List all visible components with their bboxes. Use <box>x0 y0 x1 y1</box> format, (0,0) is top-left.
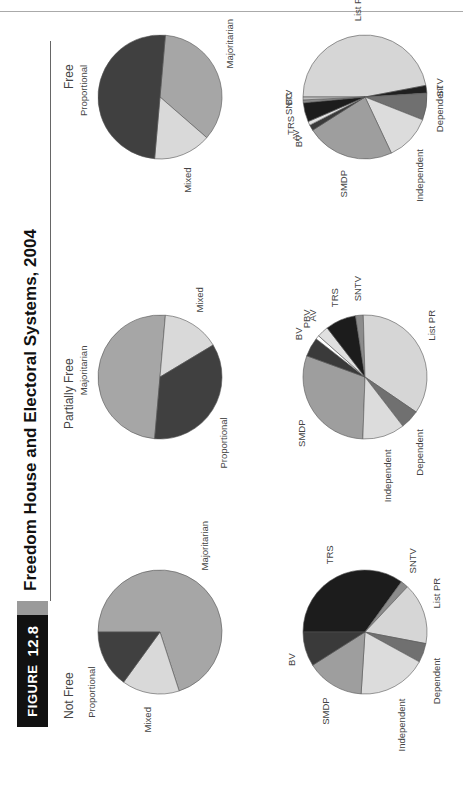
pie-slice-proportional <box>98 35 165 159</box>
pie-label-smdp: SMDP <box>338 170 349 197</box>
pie-label-trs: TRS <box>285 116 296 135</box>
pie-label-list-pr: List PR <box>426 310 437 341</box>
figure-number: 12.8 <box>24 625 41 656</box>
pie-partially-free-detail: SMDPBVPBVAVTRSSNTVList PRDependentIndepe… <box>290 302 440 452</box>
pie-not-free-detail: TRSSNTVList PRDependentIndependentSMDPBV <box>290 557 440 707</box>
pie-label-mixed: Mixed <box>182 167 193 192</box>
pie-label-majoritarian: Majoritarian <box>224 19 235 69</box>
pie-label-independent: Independent <box>396 698 407 751</box>
pie-slice-list-pr <box>303 35 426 97</box>
pie-label-proportional: Proportional <box>218 417 229 468</box>
pie-label-mixed: Mixed <box>142 707 153 732</box>
pie-label-dependent: Dependent <box>434 85 445 132</box>
pie-label-proportional: Proportional <box>86 667 97 718</box>
pie-label-majoritarian: Majoritarian <box>199 521 210 571</box>
pie-free-detail: List PRSTVDependentIndependentSMDPBVAVTR… <box>290 22 440 172</box>
pie-label-av: AV <box>307 309 318 322</box>
pie-label-independent: Independent <box>382 449 393 502</box>
pie-label-bv: BV <box>286 653 297 666</box>
title-rule <box>50 41 51 601</box>
pie-label-smdp: SMDP <box>320 697 331 724</box>
pie-label-list-pr: List PR <box>431 578 442 609</box>
pie-label-sntv: SNTV <box>407 547 418 573</box>
pie-label-bc: BC <box>283 92 294 105</box>
figure-title: Freedom House and Electoral Systems, 200… <box>21 229 41 591</box>
pie-label-list-pr: List PR <box>352 0 363 21</box>
pie-label-smdp: SMDP <box>296 419 307 446</box>
column-title-partially-free: Partially Free <box>62 358 76 429</box>
pie-label-trs: TRS <box>324 545 335 564</box>
column-title-not-free: Not Free <box>62 672 76 719</box>
pie-partially-free-summary: MajoritarianMixedProportional <box>85 302 235 452</box>
figure-badge: Figure 12.8 <box>17 615 48 727</box>
rotated-figure-page: Figure 12.8 Freedom House and Electoral … <box>0 0 463 807</box>
pie-label-dependent: Dependent <box>414 429 425 476</box>
column-title-free: Free <box>62 64 76 89</box>
pie-label-dependent: Dependent <box>431 657 442 704</box>
pie-label-proportional: Proportional <box>78 65 89 116</box>
figure-label: Figure <box>25 665 40 717</box>
pie-label-trs: TRS <box>329 288 340 307</box>
pie-slice-majoritarian <box>98 315 165 439</box>
pie-free-summary: MajoritarianMixedProportional <box>85 22 235 172</box>
figure-badge-accent <box>17 601 48 615</box>
pie-label-independent: Independent <box>414 149 425 202</box>
pie-label-majoritarian: Majoritarian <box>78 346 89 396</box>
pie-label-bv: BV <box>293 327 304 340</box>
pie-not-free-summary: MajoritarianMixedProportional <box>85 557 235 707</box>
pie-label-mixed: Mixed <box>194 287 205 312</box>
pie-label-sntv: SNTV <box>352 275 363 301</box>
